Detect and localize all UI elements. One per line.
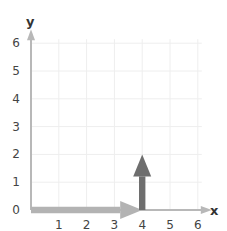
x-tick-label: 6 (194, 218, 202, 231)
axes (27, 29, 212, 214)
y-tick-label: 0 (12, 203, 20, 217)
x-tick-label: 3 (111, 218, 119, 231)
tick-labels: 1234560123456 (12, 36, 201, 231)
y-tick-label: 3 (12, 120, 20, 134)
x-axis-label: x (210, 203, 219, 218)
x-tick-label: 5 (166, 218, 174, 231)
vertical-vector-shaft (139, 176, 145, 210)
y-axis-arrowhead (27, 29, 35, 40)
y-tick-label: 1 (12, 175, 20, 189)
x-tick-label: 1 (55, 218, 63, 231)
horizontal-vector-arrowhead (120, 201, 142, 219)
grid (31, 39, 202, 210)
y-tick-label: 4 (12, 92, 20, 106)
y-tick-label: 5 (12, 64, 20, 78)
y-axis-label: y (26, 14, 35, 29)
horizontal-vector-shaft (31, 207, 120, 213)
x-tick-label: 4 (138, 218, 146, 231)
vertical-vector-arrowhead (133, 154, 151, 176)
vector-chart: 1234560123456 x y (0, 0, 227, 231)
y-tick-label: 6 (12, 36, 20, 50)
y-tick-label: 2 (12, 147, 20, 161)
x-tick-label: 2 (83, 218, 91, 231)
vectors (31, 154, 151, 219)
